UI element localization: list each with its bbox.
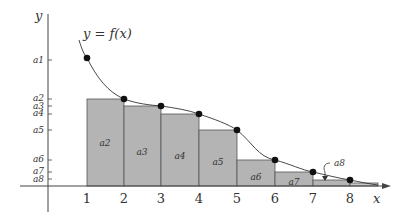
svg-text:4: 4	[195, 191, 203, 206]
svg-text:a5: a5	[33, 125, 44, 135]
svg-text:6: 6	[271, 191, 279, 206]
riemann-sum-diagram: y x y = f(x) a1 a2 a3 a4 a5 a6 a7 a8 1 2…	[0, 0, 419, 221]
riemann-rectangles	[87, 99, 378, 186]
svg-text:a2: a2	[99, 138, 110, 148]
svg-text:a1: a1	[33, 55, 44, 65]
svg-text:8: 8	[346, 191, 354, 206]
a8-callout-label: a8	[334, 158, 345, 168]
svg-text:a7: a7	[288, 177, 299, 187]
x-axis-arrowhead-icon	[382, 183, 391, 189]
diagram-svg: y x y = f(x) a1 a2 a3 a4 a5 a6 a7 a8 1 2…	[0, 0, 419, 221]
rect-a8	[313, 180, 350, 186]
svg-text:3: 3	[157, 191, 165, 206]
y-tick-labels: a1 a2 a3 a4 a5 a6 a7 a8	[33, 55, 44, 184]
svg-text:a6: a6	[33, 154, 44, 164]
x-tick-labels: 1 2 3 4 5 6 7 8	[83, 191, 354, 206]
svg-text:a5: a5	[212, 157, 223, 167]
svg-text:a4: a4	[33, 108, 44, 118]
svg-text:1: 1	[83, 191, 91, 206]
svg-text:a4: a4	[174, 151, 185, 161]
rect-a3	[124, 106, 161, 186]
svg-text:a8: a8	[33, 174, 44, 184]
curve-label: y = f(x)	[82, 26, 132, 41]
svg-text:a3: a3	[136, 147, 147, 157]
y-axis-ticks	[48, 60, 52, 179]
x-axis-label: x	[373, 191, 381, 206]
svg-text:2: 2	[120, 191, 128, 206]
y-axis-label: y	[34, 8, 43, 23]
svg-text:5: 5	[233, 191, 241, 206]
rect-a4	[161, 114, 199, 186]
svg-text:7: 7	[309, 191, 317, 206]
svg-text:a6: a6	[250, 172, 261, 182]
